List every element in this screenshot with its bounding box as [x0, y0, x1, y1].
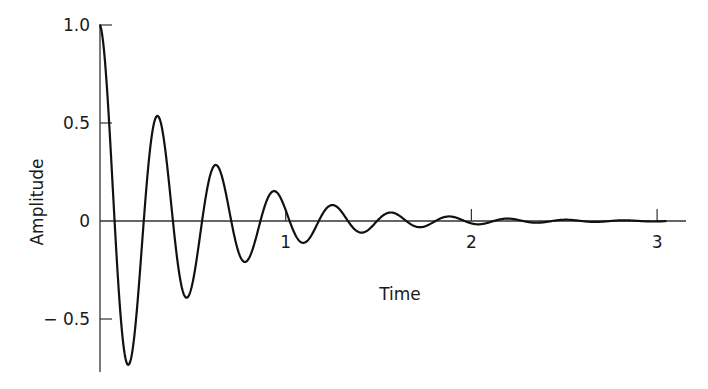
damped-oscillation-curve	[100, 25, 666, 365]
y-axis-label: Amplitude	[27, 158, 47, 245]
y-ticks: 1.00.50− 0.5	[43, 15, 112, 329]
damped-oscillation-chart: 1.00.50− 0.5 123 Amplitude Time	[0, 0, 708, 389]
x-ticks: 123	[280, 209, 662, 252]
y-tick-label: − 0.5	[43, 309, 90, 329]
x-axis-label: Time	[378, 284, 421, 304]
x-tick-label: 1	[280, 232, 291, 252]
y-tick-label: 0	[79, 211, 90, 231]
x-tick-label: 3	[652, 232, 663, 252]
x-tick-label: 2	[466, 232, 477, 252]
y-tick-label: 0.5	[63, 113, 90, 133]
y-tick-label: 1.0	[63, 15, 90, 35]
